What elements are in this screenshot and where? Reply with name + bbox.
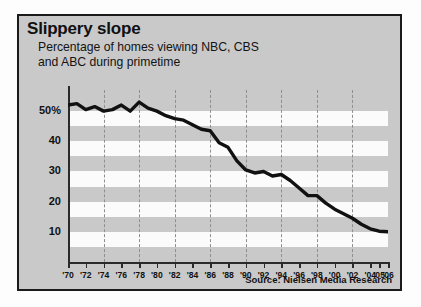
x-axis-tick	[139, 262, 141, 268]
x-axis-tick-label: '74	[98, 270, 110, 280]
x-axis-tick-label: '72	[80, 270, 92, 280]
x-axis-tick	[299, 262, 301, 268]
source-attribution: Source: Nielsen Media Research	[245, 274, 392, 285]
chart-subtitle: Percentage of homes viewing NBC, CBS and…	[38, 40, 259, 69]
x-axis-tick	[157, 262, 159, 268]
x-axis-tick-label: '86	[204, 270, 216, 280]
chart-panel: Slippery slope Percentage of homes viewi…	[17, 14, 402, 291]
x-axis-tick	[379, 262, 381, 268]
x-axis-tick	[281, 262, 283, 268]
y-axis-tick-label: 30	[21, 164, 61, 176]
infographic-page: Slippery slope Percentage of homes viewi…	[0, 0, 421, 307]
x-axis-tick-label: '82	[169, 270, 181, 280]
x-axis-tick-label: '78	[133, 270, 145, 280]
page-title: Slippery slope	[27, 19, 140, 39]
x-axis-tick	[175, 262, 177, 268]
x-axis-tick	[388, 262, 390, 268]
x-axis-tick	[317, 262, 319, 268]
series-polyline	[68, 102, 388, 232]
x-axis-tick	[86, 262, 88, 268]
y-axis-tick-label: 20	[21, 195, 61, 207]
x-axis-tick-label: '70	[62, 270, 74, 280]
x-axis-tick-label: '84	[187, 270, 199, 280]
x-axis-tick	[228, 262, 230, 268]
x-axis-tick	[210, 262, 212, 268]
y-axis-tick-label: 10	[21, 225, 61, 237]
x-axis-tick	[335, 262, 337, 268]
x-axis-tick	[192, 262, 194, 268]
x-axis-tick	[104, 262, 106, 268]
x-axis-tick-label: '88	[222, 270, 234, 280]
y-axis-tick-label: 50%	[21, 104, 61, 116]
y-axis-tick-label: 40	[21, 134, 61, 146]
x-axis-tick-label: '76	[116, 270, 128, 280]
chart-subtitle-line2: and ABC during primetime	[38, 55, 259, 70]
chart-subtitle-line1: Percentage of homes viewing NBC, CBS	[38, 40, 259, 55]
x-axis-tick	[246, 262, 248, 268]
x-axis-tick-label: '80	[151, 270, 163, 280]
x-axis-tick	[370, 262, 372, 268]
x-axis-tick	[352, 262, 354, 268]
x-axis-tick	[264, 262, 266, 268]
data-line-series	[68, 90, 388, 262]
x-axis-tick	[68, 262, 70, 268]
x-axis-tick	[121, 262, 123, 268]
